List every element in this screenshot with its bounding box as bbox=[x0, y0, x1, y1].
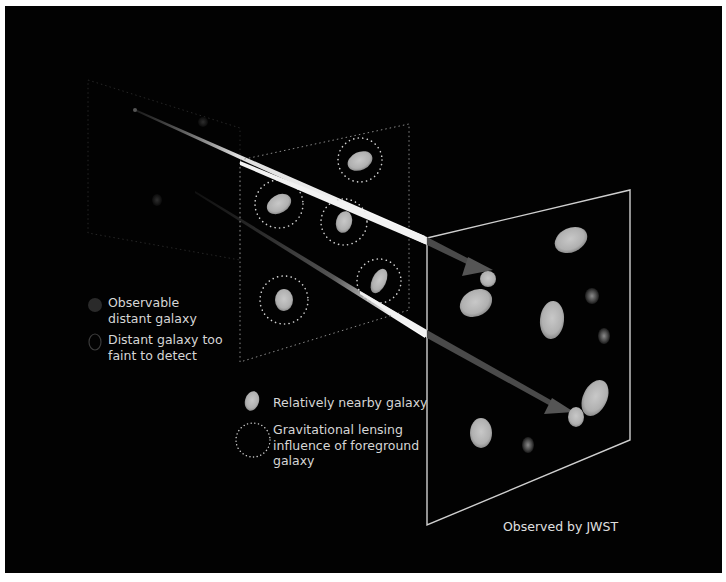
legend-center-icons bbox=[236, 390, 270, 457]
foreground-galaxy bbox=[275, 289, 293, 311]
foreground-galaxy bbox=[367, 266, 391, 295]
observed-by-jwst-caption: Observed by JWST bbox=[503, 519, 618, 534]
lensed-galaxy-image bbox=[480, 271, 496, 287]
nearby-galaxy bbox=[470, 418, 492, 448]
foreground-galaxy bbox=[333, 209, 354, 234]
legend-left-icons bbox=[88, 298, 102, 350]
distant-galaxy-image bbox=[598, 328, 610, 344]
legend-lensing-influence: Gravitational lensing influence of foreg… bbox=[273, 422, 419, 469]
light-rays-front bbox=[240, 161, 427, 338]
faint-distant-galaxy bbox=[198, 117, 208, 127]
foreground-galaxy-plane bbox=[240, 124, 409, 362]
foreground-galaxy bbox=[263, 190, 295, 219]
legend-observable-distant-galaxy: Observable distant galaxy bbox=[108, 295, 197, 326]
lensing-scene bbox=[5, 6, 722, 573]
foreground-galaxy bbox=[344, 147, 375, 174]
lensing-ring-icon bbox=[236, 423, 270, 457]
distant-galaxy-plane bbox=[88, 80, 240, 260]
distant-galaxy-image bbox=[522, 437, 534, 453]
diagram-canvas: Observable distant galaxy Distant galaxy… bbox=[5, 6, 722, 573]
legend-label: Distant galaxy too faint to detect bbox=[108, 332, 223, 363]
legend-label: Relatively nearby galaxy bbox=[273, 395, 428, 411]
nearby-galaxy-icon bbox=[243, 390, 262, 413]
distant-galaxy-image bbox=[585, 288, 599, 304]
observable-distant-galaxy-icon bbox=[88, 298, 102, 312]
legend-faint-distant-galaxy: Distant galaxy too faint to detect bbox=[108, 332, 223, 363]
legend-label: Gravitational lensing influence of foreg… bbox=[273, 422, 419, 469]
legend-nearby-galaxy: Relatively nearby galaxy bbox=[273, 395, 428, 411]
observed-image-plane bbox=[427, 190, 630, 525]
faint-distant-galaxy bbox=[152, 194, 162, 206]
legend-label: Observable distant galaxy bbox=[108, 295, 197, 326]
faint-distant-galaxy-icon bbox=[89, 334, 101, 350]
lensed-galaxy-image bbox=[568, 407, 584, 427]
